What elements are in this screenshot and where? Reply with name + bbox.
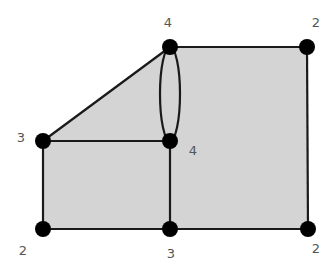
node-top-right xyxy=(299,39,315,55)
degree-label-bottom-mid: 3 xyxy=(167,247,175,260)
degree-label-center: 4 xyxy=(189,144,197,157)
node-bottom-mid xyxy=(162,221,178,237)
node-left-mid xyxy=(35,133,51,149)
degree-label-left-mid: 3 xyxy=(17,131,25,144)
edge xyxy=(307,47,308,229)
node-center xyxy=(162,133,178,149)
node-bottom-left xyxy=(35,221,51,237)
node-top-mid xyxy=(162,39,178,55)
degree-label-bottom-left: 2 xyxy=(19,244,27,257)
degree-label-bottom-right: 2 xyxy=(312,242,320,255)
node-bottom-right xyxy=(300,221,316,237)
degree-label-top-mid: 4 xyxy=(164,16,172,29)
degree-label-top-right: 2 xyxy=(312,16,320,29)
graph-diagram xyxy=(0,0,333,269)
